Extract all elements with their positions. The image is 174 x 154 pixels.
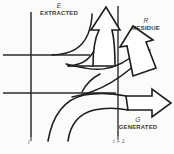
generated-label: G GENERATED [112,117,164,130]
flow-curve-extracted [52,14,92,55]
residue-text: RESIDUE [123,25,169,32]
generated-text: GENERATED [113,124,163,131]
extracted-text: EXTRACTED [35,10,83,17]
extracted-label: E EXTRACTED [34,3,84,16]
residue-arrow [120,26,156,76]
generated-arrow [126,89,171,117]
extracted-arrow [91,7,120,66]
residue-label: R RESIDUE [122,18,170,31]
axis-ticks [31,136,118,141]
axis-tick-label-t: t [28,139,30,145]
axis-tick-label-t-plus-1: t + 1 [113,138,125,144]
figure-canvas: E EXTRACTED R RESIDUE G GENERATED t t + … [0,0,174,154]
